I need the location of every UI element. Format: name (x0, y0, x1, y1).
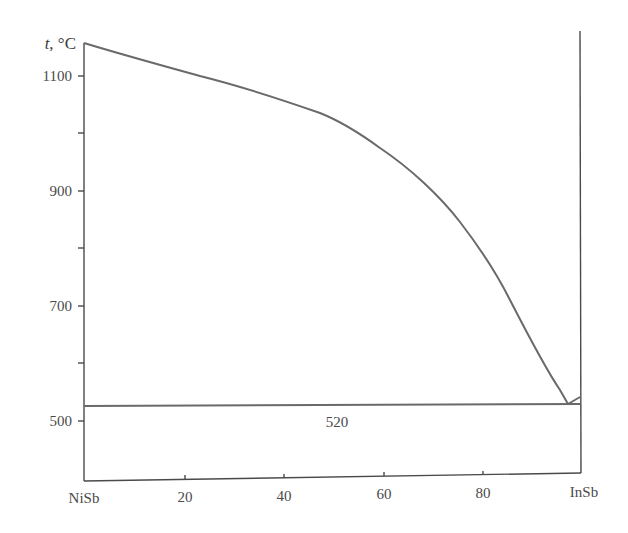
y-ticks (78, 76, 84, 421)
insb-liquidus-segment (568, 397, 580, 404)
eutectic-temperature-label: 520 (326, 414, 349, 430)
y-axis-right-InSb (580, 31, 581, 473)
x-tick-label-InSb: InSb (570, 484, 598, 500)
y-tick-label-1100: 1100 (43, 68, 72, 84)
x-tick-label-40: 40 (277, 488, 292, 504)
x-tick-label-80: 80 (476, 485, 491, 501)
x-tick-label-60: 60 (377, 486, 392, 502)
x-tick-label-20: 20 (178, 489, 193, 505)
x-tick-label-NiSb: NiSb (69, 490, 100, 506)
liquidus-curve (84, 43, 568, 404)
phase-diagram: 1100 900 700 500 t, °C NiSb 20 40 60 80 … (0, 0, 628, 533)
y-tick-label-500: 500 (50, 413, 73, 429)
y-axis-label: t, °C (45, 34, 76, 53)
x-axis-bottom (84, 473, 581, 481)
y-axis-label-unit: , °C (49, 34, 76, 53)
y-tick-label-900: 900 (50, 183, 73, 199)
y-tick-label-700: 700 (50, 298, 73, 314)
eutectic-line (84, 404, 580, 406)
